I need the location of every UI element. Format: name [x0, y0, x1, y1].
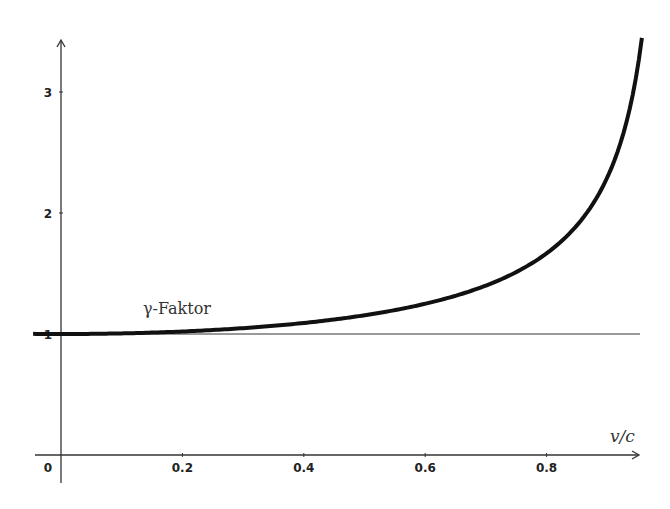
x-tick-label: 0: [44, 461, 52, 475]
x-tick-label: 0.2: [172, 461, 193, 475]
y-tick-label: 2: [44, 207, 52, 221]
x-tick-label: 0.6: [415, 461, 436, 475]
x-tick-label: 0.4: [293, 461, 314, 475]
axis-ticks: 00.20.40.60.8123: [44, 86, 557, 475]
x-axis-label: v/c: [610, 426, 635, 446]
axes: [35, 40, 639, 483]
y-tick-label: 3: [44, 86, 52, 100]
x-tick-label: 0.8: [536, 461, 557, 475]
gamma-curve: [33, 38, 642, 334]
gamma-curve-path: [33, 38, 642, 334]
gamma-factor-chart: 00.20.40.60.8123 v/c γ-Faktor: [0, 0, 670, 509]
curve-label: γ-Faktor: [143, 299, 211, 318]
